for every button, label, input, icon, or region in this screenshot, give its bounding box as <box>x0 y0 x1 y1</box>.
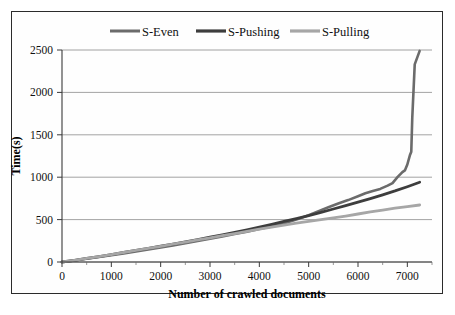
chart-figure: 0500100015002000250001000200030004000500… <box>0 0 455 315</box>
y-tick-label: 2000 <box>30 86 53 98</box>
legend-label-s-pulling: S-Pulling <box>322 25 370 39</box>
y-axis-ticks: 05001000150020002500 <box>30 44 62 268</box>
y-axis-title: Time(s) <box>9 136 23 175</box>
y-tick-label: 500 <box>36 214 54 226</box>
chart-legend: S-EvenS-PushingS-Pulling <box>110 25 370 39</box>
x-tick-label: 0 <box>59 270 65 282</box>
x-tick-label: 7000 <box>396 270 419 282</box>
x-axis-title: Number of crawled documents <box>168 287 326 301</box>
y-tick-label: 1000 <box>30 171 53 183</box>
x-tick-label: 2000 <box>149 270 172 282</box>
y-tick-label: 2500 <box>30 44 53 56</box>
line-chart: 0500100015002000250001000200030004000500… <box>0 0 455 315</box>
x-tick-label: 5000 <box>297 270 320 282</box>
legend-label-s-even: S-Even <box>142 25 180 39</box>
series-line-s-pulling <box>62 205 420 262</box>
x-tick-label: 6000 <box>347 270 370 282</box>
legend-label-s-pushing: S-Pushing <box>228 25 280 39</box>
y-tick-label: 1500 <box>30 129 53 141</box>
x-tick-label: 4000 <box>248 270 271 282</box>
y-tick-label: 0 <box>47 256 53 268</box>
series-group <box>62 51 420 262</box>
x-axis-ticks: 01000200030004000500060007000 <box>59 262 432 282</box>
x-tick-label: 3000 <box>199 270 222 282</box>
x-tick-label: 1000 <box>100 270 123 282</box>
